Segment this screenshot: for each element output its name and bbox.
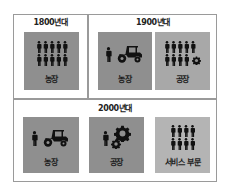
era-label-1800s: 1800년대 bbox=[13, 18, 88, 28]
person-tractor-icon bbox=[98, 32, 152, 75]
tile-label: 농장 bbox=[45, 75, 58, 85]
row-divider bbox=[13, 98, 217, 100]
person-gear-icon bbox=[89, 117, 144, 158]
tile-1900s-factory: 공장 bbox=[155, 32, 210, 90]
tile-label: 농장 bbox=[118, 75, 131, 85]
people-group-icon bbox=[24, 32, 79, 75]
tile-1900s-farm: 농장 bbox=[98, 32, 152, 90]
people-gear-icon bbox=[155, 32, 210, 75]
person-tractor-icon bbox=[23, 117, 79, 158]
tile-2000s-farm: 농장 bbox=[23, 117, 79, 173]
tile-label: 공장 bbox=[110, 158, 123, 168]
era-label-2000s: 2000년대 bbox=[13, 104, 217, 114]
tile-2000s-service: 서비스 부문 bbox=[155, 117, 210, 173]
people-group-icon bbox=[155, 117, 210, 158]
tile-2000s-factory: 공장 bbox=[89, 117, 144, 173]
tile-label: 서비스 부문 bbox=[165, 158, 201, 168]
tile-label: 농장 bbox=[44, 158, 57, 168]
era-label-1900s: 1900년대 bbox=[89, 18, 217, 28]
tile-label: 공장 bbox=[176, 75, 189, 85]
tile-1800s-farm: 농장 bbox=[24, 32, 79, 90]
